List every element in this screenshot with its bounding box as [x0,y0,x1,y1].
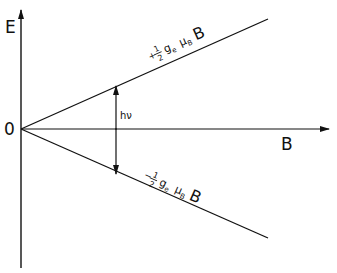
lower-level-label: − 1 2 g e μ B B [140,165,204,209]
field-axis-label: B [281,134,293,154]
svg-text:B: B [187,186,205,208]
lower-level-line [21,129,268,238]
zeeman-diagram: E B 0 hν + 1 2 g e μ B B − 1 2 g e μ B B [0,0,337,273]
svg-text:B: B [190,22,208,44]
svg-text:2: 2 [156,53,164,63]
upper-level-line [21,19,268,129]
transition-label: hν [120,110,132,121]
origin-label: 0 [4,119,15,139]
energy-axis-label: E [5,17,16,37]
